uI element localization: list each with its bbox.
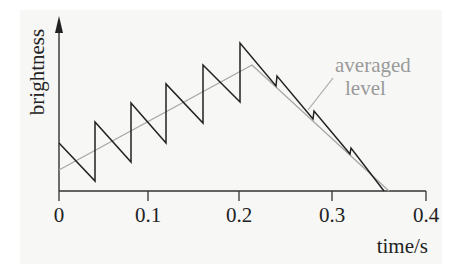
y-axis-arrow-icon: [55, 16, 63, 33]
annotation-averaged: averaged: [335, 53, 411, 77]
annotation-leader-line: [308, 78, 333, 110]
brightness-chart: 0 0.1 0.2 0.3 0.4 time/s brightness aver…: [0, 0, 466, 278]
annotation-level: level: [345, 76, 386, 100]
averaged-level-line: [59, 65, 389, 191]
x-tick-label-0.2: 0.2: [226, 203, 252, 227]
x-tick-label-0: 0: [54, 203, 65, 227]
x-tick-label-0.4: 0.4: [413, 203, 440, 227]
x-tick-label-0.3: 0.3: [319, 203, 345, 227]
x-axis-title: time/s: [377, 234, 428, 258]
x-tick-label-0.1: 0.1: [135, 203, 161, 227]
y-axis-title: brightness: [25, 29, 49, 115]
